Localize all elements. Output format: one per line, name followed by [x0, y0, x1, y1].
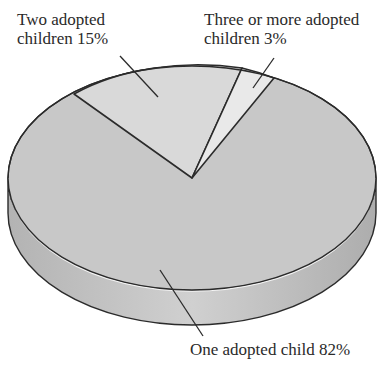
label-three-or-more: Three or more adopted children 3%	[204, 10, 359, 48]
label-three-or-more-line2: children 3%	[204, 29, 359, 48]
label-one-child-line1: One adopted child 82%	[190, 340, 350, 359]
label-one-child: One adopted child 82%	[190, 340, 350, 359]
pie-chart	[0, 0, 391, 368]
label-two-children-line1: Two adopted	[17, 10, 108, 29]
label-two-children: Two adopted children 15%	[17, 10, 108, 48]
label-three-or-more-line1: Three or more adopted	[204, 10, 359, 29]
label-two-children-line2: children 15%	[17, 29, 108, 48]
